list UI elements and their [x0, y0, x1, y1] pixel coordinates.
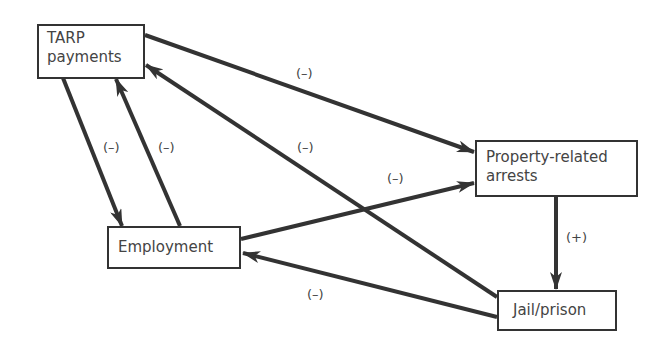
edge-jail-employment	[243, 253, 497, 317]
sign-arrests-jail: (+)	[566, 230, 587, 245]
causal-diagram: TARP payments Property-related arrests E…	[0, 0, 672, 359]
sign-employment-arrests: (–)	[387, 171, 404, 186]
edge-tarp-arrests	[145, 35, 474, 152]
node-label: payments	[47, 48, 135, 67]
sign-tarp-employment: (–)	[103, 140, 120, 155]
sign-tarp-arrests: (–)	[296, 66, 313, 81]
node-label: Jail/prison	[513, 301, 601, 320]
node-label: Employment	[118, 238, 230, 257]
node-tarp-payments: TARP payments	[37, 24, 145, 79]
sign-employment-tarp: (–)	[158, 140, 175, 155]
sign-jail-employment: (–)	[307, 287, 324, 302]
node-label: arrests	[486, 167, 627, 186]
node-employment: Employment	[107, 226, 241, 269]
node-property-arrests: Property-related arrests	[475, 140, 638, 197]
node-label: Property-related	[486, 148, 627, 167]
node-label: TARP	[47, 29, 135, 48]
edge-employment-arrests	[241, 183, 474, 239]
sign-jail-tarp: (–)	[297, 140, 314, 155]
node-jail-prison: Jail/prison	[497, 290, 617, 331]
